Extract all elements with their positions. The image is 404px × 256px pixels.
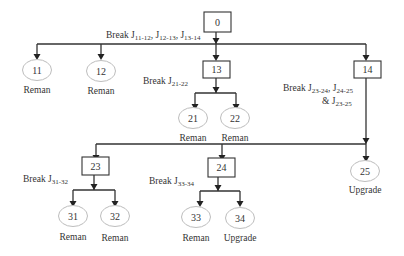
node-11: 11 Reman <box>23 60 52 96</box>
node-25-caption: Upgrade <box>349 185 382 195</box>
break-label-node-14-line2: & J23-25 <box>322 96 352 108</box>
node-21-label: 21 <box>188 113 198 124</box>
node-13: 13 <box>203 61 230 78</box>
node-22-label: 22 <box>230 113 240 124</box>
node-13-label: 13 <box>212 64 222 75</box>
break-label-node-13: Break J21-22 <box>143 76 189 88</box>
node-0: 0 <box>204 12 231 32</box>
break-label-node-24: Break J33-34 <box>149 176 195 188</box>
break-label-node-14-line1: Break J23-24, J24-25 <box>283 83 353 95</box>
node-21-caption: Reman <box>180 133 207 143</box>
node-33-caption: Reman <box>183 233 210 243</box>
node-14: 14 <box>354 61 381 78</box>
arrowhead-0-bar <box>213 38 220 44</box>
node-12: 12 Reman <box>87 61 116 97</box>
node-23: 23 <box>82 157 109 175</box>
arrowhead-14-bar <box>363 138 370 144</box>
decision-tree-diagram: 0 13 14 23 24 11 Reman 12 Reman 21 Reman… <box>0 0 404 256</box>
break-label-node-23: Break J31-32 <box>23 174 69 186</box>
node-0-label: 0 <box>215 17 220 28</box>
arrowhead-24-bar <box>215 185 222 191</box>
break-label-node-0: Break J11-12, J12-13, J13-14 <box>106 30 201 42</box>
node-34: 34 Upgrade <box>224 208 257 244</box>
node-14-label: 14 <box>363 64 373 75</box>
node-32: 32 Reman <box>101 206 130 244</box>
node-21: 21 Reman <box>179 108 208 144</box>
node-31-caption: Reman <box>60 232 87 242</box>
node-24-label: 24 <box>217 162 227 173</box>
node-25: 25 Upgrade <box>349 161 382 196</box>
node-24: 24 <box>208 158 235 177</box>
node-34-caption: Upgrade <box>224 233 257 243</box>
node-23-label: 23 <box>91 161 101 172</box>
arrowhead-13 <box>213 55 220 61</box>
node-32-caption: Reman <box>102 233 129 243</box>
node-32-label: 32 <box>110 211 120 222</box>
node-12-caption: Reman <box>88 86 115 96</box>
node-31: 31 Reman <box>59 206 88 243</box>
arrowhead-14 <box>363 55 370 61</box>
arrowhead-13-bar <box>213 87 220 93</box>
arrowhead-23-bar <box>91 184 98 190</box>
node-33-label: 33 <box>191 212 201 223</box>
node-11-caption: Reman <box>24 85 51 95</box>
arrowhead-12 <box>98 54 105 60</box>
node-12-label: 12 <box>96 66 106 77</box>
arrowhead-34 <box>237 201 244 207</box>
node-25-label: 25 <box>360 166 370 177</box>
node-11-label: 11 <box>32 65 42 76</box>
node-31-label: 31 <box>68 211 78 222</box>
node-34-label: 34 <box>235 213 245 224</box>
node-22-caption: Reman <box>222 133 249 143</box>
node-22: 22 Reman <box>221 108 250 144</box>
node-33: 33 Reman <box>182 207 211 244</box>
